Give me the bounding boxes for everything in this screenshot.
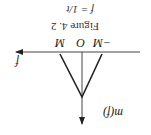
figure-caption: Figure 4. 2 <box>51 21 99 33</box>
tent-curve <box>60 54 102 97</box>
tick-origin: O <box>76 36 85 50</box>
tick-m: M <box>54 36 66 50</box>
figure-subcaption: f = 1/t <box>65 4 94 16</box>
x-axis-label: f <box>14 55 19 69</box>
figure: m(f) f −M O M Figure 4. 2 f = 1/t <box>0 0 151 135</box>
diagram-canvas: m(f) f −M O M Figure 4. 2 f = 1/t <box>0 0 151 135</box>
tick-neg-m: −M <box>92 36 111 50</box>
y-axis-label: m(f) <box>103 106 123 120</box>
